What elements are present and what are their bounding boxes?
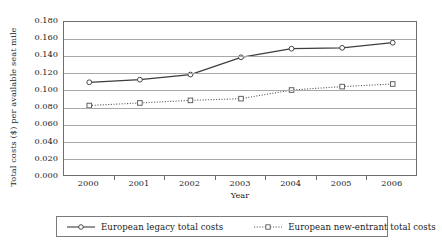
series-line-legacy [89, 42, 392, 82]
y-axis-tick-label: 0.080 [22, 102, 58, 111]
legend-entry-new-entrant: European new-entrant total costs [254, 217, 436, 236]
data-point-marker [137, 77, 142, 82]
legend-entry-legacy: European legacy total costs [67, 217, 223, 236]
y-axis-tick-label: 0.180 [22, 16, 58, 25]
x-axis-tick-mark [316, 176, 317, 180]
chart-legend: European legacy total costs European new… [56, 216, 388, 237]
data-point-marker [87, 79, 92, 84]
gridline [64, 73, 416, 74]
gridline [64, 142, 416, 143]
plot-area [63, 21, 417, 176]
legend-label-new-entrant: European new-entrant total costs [288, 222, 436, 232]
data-point-marker [390, 40, 395, 45]
gridline [64, 125, 416, 126]
x-axis-tick-label: 2003 [230, 178, 251, 188]
x-axis-tick-mark [265, 176, 266, 180]
x-axis-tick-label: 2006 [381, 178, 402, 188]
legend-label-legacy: European legacy total costs [101, 222, 223, 232]
data-point-marker [340, 45, 345, 50]
x-axis-tick-mark [114, 176, 115, 180]
legend-swatch-legacy-line-icon [67, 222, 95, 232]
y-axis-tick-label: 0.060 [22, 119, 58, 128]
y-axis-tick-label: 0.140 [22, 50, 58, 59]
y-axis-tick-label: 0.040 [22, 137, 58, 146]
x-axis-tick-label: 2001 [128, 178, 149, 188]
y-axis-tick-label: 0.100 [22, 85, 58, 94]
x-axis-tick-mark [215, 176, 216, 180]
gridline [64, 108, 416, 109]
y-axis-tick-labels: 0.1800.1600.1400.1200.1000.0800.0600.040… [22, 14, 58, 184]
x-axis-tick-label: 2004 [280, 178, 301, 188]
gridline [64, 39, 416, 40]
x-axis-tick-mark [366, 176, 367, 180]
y-axis-tick-label: 0.120 [22, 68, 58, 77]
y-axis-tick-label: 0.000 [22, 171, 58, 180]
y-axis-tick-label: 0.020 [22, 154, 58, 163]
gridline [64, 159, 416, 160]
x-axis-tick-label: 2000 [78, 178, 99, 188]
chart-figure: Total costs ($) per available seat mile … [0, 0, 442, 251]
gridline [64, 90, 416, 91]
x-axis-tick-label: 2005 [331, 178, 352, 188]
x-axis-tick-mark [164, 176, 165, 180]
series-line-new-entrant [89, 84, 392, 106]
data-point-marker [239, 96, 244, 101]
data-point-marker [138, 100, 143, 105]
x-axis-label: Year [63, 190, 417, 200]
data-series-layer [64, 22, 418, 177]
x-axis-tick-label: 2002 [179, 178, 200, 188]
y-axis-tick-label: 0.160 [22, 33, 58, 42]
data-point-marker [188, 98, 193, 103]
data-point-marker [340, 84, 345, 89]
legend-swatch-new-entrant-line-icon [254, 222, 282, 232]
gridline [64, 56, 416, 57]
data-point-marker [289, 46, 294, 51]
data-point-marker [390, 81, 395, 86]
